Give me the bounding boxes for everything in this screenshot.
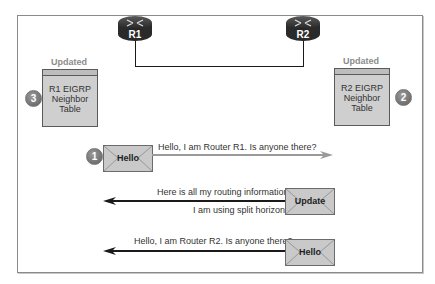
message-text-below: I am using split horizon. — [193, 205, 288, 215]
packet-label: Hello — [104, 153, 152, 163]
hello-envelope-r2: Hello — [285, 239, 335, 266]
router-link-r1-drop — [135, 40, 136, 67]
router-r2: R2 — [285, 14, 321, 42]
table-line: R2 EIGRP — [335, 83, 389, 93]
step-badge-3: 3 — [25, 90, 42, 107]
router-link-r2-drop — [303, 40, 304, 67]
r2-updated-label: Updated — [333, 56, 389, 66]
message-text: Hello, I am Router R2. Is anyone there? — [134, 236, 293, 246]
table-line: R1 EIGRP — [43, 84, 97, 94]
packet-label: Hello — [286, 247, 334, 257]
arrow-left-icon — [102, 196, 286, 206]
table-line: Table — [335, 103, 389, 113]
table-line: Neighbor — [335, 93, 389, 103]
table-header-bar — [335, 69, 389, 75]
step-badge-2: 2 — [395, 89, 412, 106]
step-badge-1: 1 — [86, 148, 103, 165]
table-line: Neighbor — [43, 94, 97, 104]
router-label: R1 — [117, 29, 153, 40]
router-link-horizontal — [135, 66, 304, 67]
router-label: R2 — [285, 29, 321, 40]
arrow-left-icon — [102, 246, 286, 256]
hello-envelope-r1: Hello — [103, 145, 153, 172]
update-envelope: Update — [285, 188, 335, 215]
packet-label: Update — [286, 196, 334, 206]
router-r1: R1 — [117, 14, 153, 42]
r1-updated-label: Updated — [41, 57, 97, 67]
r1-neighbor-table: R1 EIGRP Neighbor Table — [42, 69, 98, 127]
table-line: Table — [43, 104, 97, 114]
table-header-bar — [43, 70, 97, 76]
arrow-right-icon — [152, 150, 334, 160]
r2-neighbor-table: R2 EIGRP Neighbor Table — [334, 68, 390, 126]
